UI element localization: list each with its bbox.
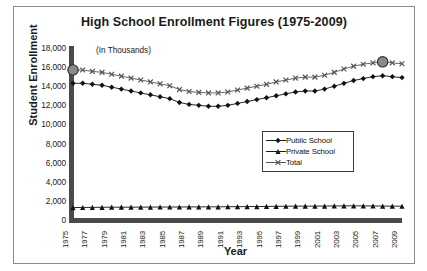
diamond-marker — [274, 93, 279, 98]
diamond-marker — [399, 75, 404, 80]
highlight-circle-annotation — [377, 57, 387, 67]
diamond-marker — [370, 74, 375, 79]
y-tick-label: 8,000 — [46, 139, 66, 149]
x-axis-title: Year — [69, 245, 402, 257]
series-public-school — [70, 73, 404, 109]
diamond-marker — [332, 84, 337, 89]
chart-legend: Public SchoolPrivate SchoolTotal — [262, 131, 354, 172]
diamond-marker — [303, 88, 308, 93]
diamond-marker — [293, 89, 298, 94]
chart-frame: High School Enrollment Figures (1975-200… — [13, 6, 415, 264]
highlight-circle-annotation — [68, 65, 78, 75]
y-tick-label: 0 — [61, 215, 66, 225]
screenshot-root: High School Enrollment Figures (1975-200… — [0, 0, 427, 271]
diamond-marker — [322, 86, 327, 91]
diamond-marker — [254, 97, 259, 102]
series-total — [68, 57, 405, 96]
diamond-marker — [99, 83, 104, 88]
diamond-marker — [275, 138, 280, 143]
diamond-marker — [196, 103, 201, 108]
legend-item[interactable]: Total — [266, 157, 349, 168]
y-tick-label: 6,000 — [46, 158, 66, 168]
diamond-marker — [80, 81, 85, 86]
y-tick-label: 10,000 — [41, 119, 66, 129]
y-axis-tick-labels: 18,00016,00014,00012,00010,0008,0006,000… — [14, 48, 66, 220]
diamond-marker — [138, 90, 143, 95]
cross-marker — [332, 70, 337, 75]
diamond-marker — [244, 99, 249, 104]
diamond-marker — [186, 102, 191, 107]
diamond-marker — [128, 88, 133, 93]
diamond-marker — [312, 88, 317, 93]
diamond-marker — [177, 100, 182, 105]
diamond-marker — [235, 101, 240, 106]
y-tick-label: 12,000 — [41, 100, 66, 110]
diamond-marker — [283, 91, 288, 96]
cross-marker — [266, 157, 286, 168]
chart-title: High School Enrollment Figures (1975-200… — [14, 15, 414, 29]
legend-marker — [266, 135, 286, 146]
diamond-marker — [215, 104, 220, 109]
cross-marker — [276, 160, 281, 165]
diamond-marker — [119, 86, 124, 91]
legend-item[interactable]: Public School — [266, 135, 349, 146]
triangle-marker — [275, 149, 280, 154]
diamond-marker — [90, 82, 95, 87]
diamond-marker — [167, 96, 172, 101]
y-tick-label: 2,000 — [46, 196, 66, 206]
diamond-marker — [206, 104, 211, 109]
y-tick-label: 4,000 — [46, 177, 66, 187]
diamond-marker — [266, 135, 286, 146]
diamond-marker — [351, 78, 356, 83]
triangle-marker — [266, 146, 286, 157]
y-tick-label: 18,000 — [41, 43, 66, 53]
diamond-marker — [341, 81, 346, 86]
cross-marker — [342, 67, 347, 72]
legend-item-label: Private School — [286, 147, 335, 156]
diamond-marker — [390, 74, 395, 79]
legend-marker — [266, 146, 286, 157]
diamond-marker — [148, 92, 153, 97]
legend-item-label: Public School — [286, 136, 332, 145]
diamond-marker — [264, 95, 269, 100]
diamond-marker — [109, 84, 114, 89]
legend-item-label: Total — [286, 158, 302, 167]
diamond-marker — [157, 94, 162, 99]
y-tick-label: 14,000 — [41, 81, 66, 91]
diamond-marker — [380, 73, 385, 78]
diamond-marker — [225, 103, 230, 108]
y-tick-label: 16,000 — [41, 62, 66, 72]
diamond-marker — [361, 76, 366, 81]
series-private-school — [70, 203, 404, 210]
legend-item[interactable]: Private School — [266, 146, 349, 157]
legend-marker — [266, 157, 286, 168]
